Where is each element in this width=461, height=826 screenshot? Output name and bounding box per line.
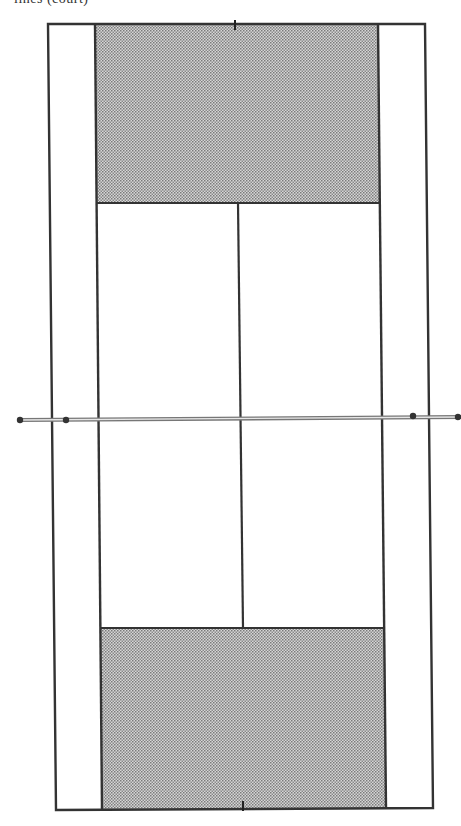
net-post-3 <box>410 413 416 419</box>
bottom-backcourt-shade <box>101 628 386 810</box>
top-backcourt-shade <box>95 24 379 203</box>
net-post-2 <box>63 417 69 423</box>
tennis-court-diagram <box>0 0 461 826</box>
net-post-1 <box>17 417 23 423</box>
center-service-line <box>238 203 243 628</box>
net-post-4 <box>455 414 461 420</box>
